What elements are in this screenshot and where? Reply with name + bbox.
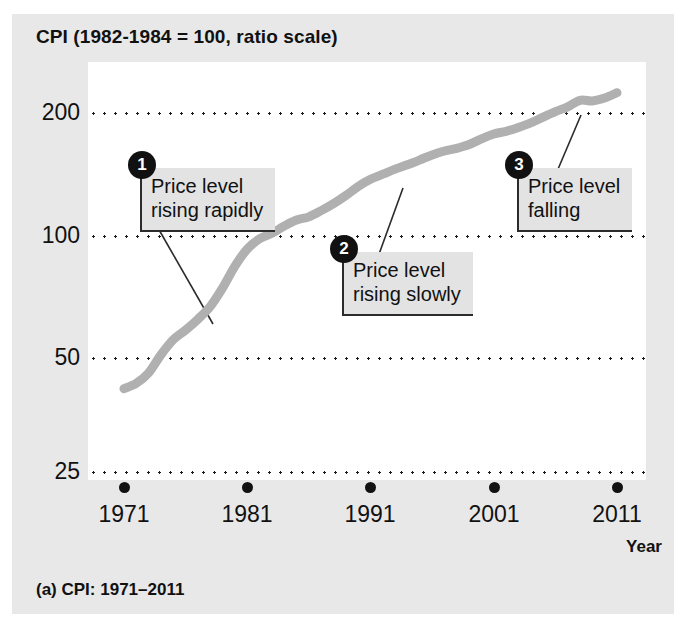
y-tick-label-25: 25 <box>10 460 80 483</box>
gridline-100 <box>88 235 646 238</box>
callout-text-1: Price level rising rapidly1 <box>140 168 275 232</box>
x-tick-dot-1981 <box>242 482 253 493</box>
x-tick-dot-1991 <box>365 482 376 493</box>
callout-1: Price level rising rapidly1 <box>140 168 275 232</box>
chart-title: CPI (1982-1984 = 100, ratio scale) <box>36 26 338 48</box>
figure-caption: (a) CPI: 1971–2011 <box>36 580 184 600</box>
x-tick-label-2011: 2011 <box>557 501 677 528</box>
x-axis-title: Year <box>626 537 662 557</box>
x-tick-label-1981: 1981 <box>187 501 307 528</box>
x-tick-label-1991: 1991 <box>310 501 430 528</box>
x-tick-dot-2001 <box>489 482 500 493</box>
callout-badge-1: 1 <box>128 151 156 179</box>
callout-text-3: Price level falling3 <box>517 168 632 232</box>
y-tick-label-100: 100 <box>10 224 80 247</box>
x-tick-label-2001: 2001 <box>434 501 554 528</box>
gridline-200 <box>88 112 646 115</box>
x-tick-dot-2011 <box>612 482 623 493</box>
y-tick-label-50: 50 <box>10 346 80 369</box>
y-tick-label-200: 200 <box>10 101 80 124</box>
gridline-25 <box>88 471 646 474</box>
gridline-50 <box>88 357 646 360</box>
x-tick-dot-1971 <box>119 482 130 493</box>
callout-badge-3: 3 <box>505 151 533 179</box>
callout-3: Price level falling3 <box>517 168 632 232</box>
callout-2: Price level rising slowly2 <box>342 252 473 316</box>
x-tick-label-1971: 1971 <box>64 501 184 528</box>
cpi-figure: CPI (1982-1984 = 100, ratio scale) 20010… <box>0 0 686 628</box>
callout-text-2: Price level rising slowly2 <box>342 252 473 316</box>
callout-badge-2: 2 <box>330 235 358 263</box>
